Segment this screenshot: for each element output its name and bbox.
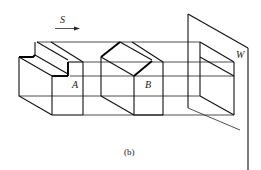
arrow-right-icon — [74, 27, 80, 31]
plane-w-label: W — [236, 49, 246, 60]
view-direction-label: S — [60, 14, 65, 25]
object-a-label: A — [71, 79, 79, 90]
projection-plane-w: W — [188, 14, 248, 170]
figure-caption: (b) — [124, 147, 135, 157]
view-direction-arrow: S — [55, 14, 80, 31]
side-view-projection — [200, 42, 234, 115]
object-b: B — [101, 42, 163, 115]
projection-lines — [19, 42, 234, 115]
object-b-label: B — [145, 79, 151, 90]
object-a: A — [19, 42, 83, 115]
projection-diagram: S A — [0, 0, 261, 170]
